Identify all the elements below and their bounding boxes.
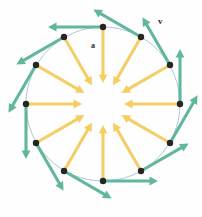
velocity-vector-1 — [93, 10, 141, 38]
velocity-vector-11 — [16, 37, 64, 65]
velocity-vector-5-shaft — [141, 147, 182, 171]
velocity-label: v — [158, 17, 163, 26]
acceleration-label: a — [91, 42, 95, 50]
acceleration-vector-0-head — [99, 75, 108, 84]
position-marker-4 — [167, 140, 173, 146]
acceleration-vector-10 — [36, 65, 84, 93]
velocity-vector-3 — [176, 49, 185, 104]
velocity-vector-0-head — [48, 23, 57, 32]
position-marker-0 — [100, 24, 106, 30]
acceleration-vector-9-head — [74, 100, 83, 109]
acceleration-vector-7-shaft — [64, 129, 88, 171]
acceleration-vector-4-shaft — [128, 119, 170, 143]
velocity-vector-0 — [48, 23, 103, 32]
position-marker-2 — [167, 62, 173, 68]
acceleration-vector-2 — [122, 65, 170, 93]
velocity-vector-5 — [141, 144, 189, 172]
acceleration-vector-11-shaft — [64, 37, 88, 79]
velocity-vector-7-shaft — [64, 171, 105, 195]
acceleration-vector-0 — [99, 27, 108, 83]
velocity-vector-4-shaft — [170, 102, 194, 143]
velocity-vector-8-shaft — [36, 143, 60, 184]
velocity-vector-3-head — [176, 49, 185, 58]
acceleration-vector-layer — [26, 27, 180, 181]
acceleration-vector-2-shaft — [128, 65, 170, 89]
position-marker-11 — [61, 34, 67, 40]
position-marker-9 — [23, 101, 29, 107]
acceleration-vector-7 — [64, 123, 92, 171]
velocity-vector-1-shaft — [100, 13, 141, 37]
acceleration-vector-1 — [113, 37, 141, 85]
velocity-vector-9-head — [22, 151, 31, 160]
acceleration-vector-4 — [122, 115, 170, 143]
position-marker-8 — [33, 140, 39, 146]
position-marker-6 — [100, 178, 106, 184]
acceleration-vector-6-head — [99, 125, 108, 134]
acceleration-vector-10-shaft — [36, 65, 78, 89]
acceleration-vector-3 — [124, 100, 180, 109]
velocity-vector-2-shaft — [146, 24, 170, 65]
position-marker-5 — [138, 168, 144, 174]
position-marker-3 — [177, 101, 183, 107]
velocity-vector-8 — [36, 143, 64, 191]
position-marker-10 — [33, 62, 39, 68]
velocity-vector-9 — [22, 104, 31, 159]
velocity-vector-2 — [143, 17, 171, 65]
circular-motion-figure: v a — [0, 0, 202, 217]
acceleration-vector-8-shaft — [36, 119, 78, 143]
acceleration-vector-8 — [36, 115, 84, 143]
acceleration-vector-5-shaft — [117, 129, 141, 171]
position-marker-7 — [61, 168, 67, 174]
position-marker-1 — [138, 34, 144, 40]
acceleration-vector-5 — [113, 123, 141, 171]
acceleration-vector-1-shaft — [117, 37, 141, 79]
acceleration-vector-9 — [26, 100, 82, 109]
acceleration-vector-11 — [64, 37, 92, 85]
acceleration-vector-6 — [99, 125, 108, 181]
velocity-vector-10-shaft — [12, 65, 36, 106]
velocity-vector-11-shaft — [23, 37, 64, 61]
acceleration-vector-3-head — [124, 100, 133, 109]
vector-diagram-canvas — [0, 0, 202, 217]
velocity-vector-6 — [103, 177, 158, 186]
velocity-vector-6-head — [150, 177, 159, 186]
